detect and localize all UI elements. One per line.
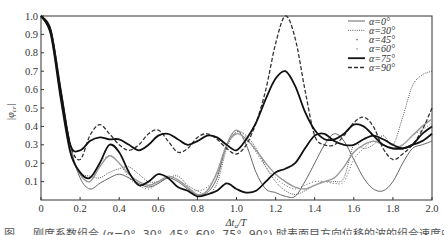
x-tick-label: 1.4 bbox=[308, 203, 322, 214]
y-tick-label: 0.8 bbox=[25, 47, 38, 58]
x-tick-label: 0 bbox=[38, 203, 43, 214]
y-tick-label: 0.6 bbox=[25, 84, 38, 95]
x-tick-label: 2.0 bbox=[425, 203, 438, 214]
y-tick-label: 0.4 bbox=[25, 121, 39, 132]
svg-text:|φcr|: |φcr| bbox=[5, 104, 18, 121]
y-tick-label: 1.0 bbox=[25, 11, 38, 22]
x-tick-label: 1.6 bbox=[347, 203, 360, 214]
x-tick-label: 0.8 bbox=[191, 203, 204, 214]
y-tick-label: 0.3 bbox=[25, 139, 38, 150]
legend-label: α=90° bbox=[369, 62, 395, 73]
y-tick-label: 0.2 bbox=[25, 158, 38, 169]
y-tick-label: 0.5 bbox=[25, 103, 38, 114]
x-tick-label: 0.2 bbox=[74, 203, 87, 214]
legend-swatch bbox=[356, 39, 358, 41]
y-axis-label: |φcr| bbox=[5, 104, 18, 121]
x-tick-label: 1.8 bbox=[386, 203, 399, 214]
x-tick-label: 1.0 bbox=[230, 203, 243, 214]
legend: α=0°α=30°α=45°α=60°α=75°α=90° bbox=[348, 16, 395, 74]
y-tick-label: 0.1 bbox=[25, 176, 38, 187]
figure-caption: 图 … 刚度系数组合 (α=0°, 30°, 45°, 60°, 75°, 90… bbox=[4, 228, 444, 235]
line-chart: 0.10.20.30.40.50.60.70.80.91.0 00.20.40.… bbox=[0, 0, 445, 235]
x-tick-label: 0.4 bbox=[113, 203, 127, 214]
x-tick-label: 0.6 bbox=[152, 203, 165, 214]
legend-swatch bbox=[356, 48, 358, 50]
y-tick-label: 0.7 bbox=[25, 66, 38, 77]
x-tick-label: 1.2 bbox=[269, 203, 282, 214]
y-tick-label: 0.9 bbox=[25, 29, 38, 40]
legend-item: α=90° bbox=[348, 62, 395, 73]
